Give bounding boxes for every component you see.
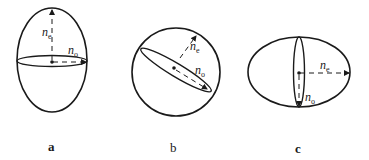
- no-label: no: [68, 43, 78, 59]
- panel-a: ne no a: [17, 8, 87, 154]
- center-dot: [172, 66, 176, 70]
- sphere-outline: [132, 28, 220, 116]
- ne-label: ne: [190, 39, 200, 55]
- no-label: no: [195, 63, 205, 79]
- no-label: no: [305, 90, 315, 106]
- panel-b: ne no b: [132, 28, 220, 155]
- ne-label: ne: [42, 25, 52, 41]
- caption-a: a: [48, 139, 55, 154]
- panel-c: ne no c: [248, 37, 350, 156]
- ne-label: ne: [320, 58, 330, 74]
- caption-c: c: [295, 141, 301, 156]
- index-ellipsoid-figure: ne no a ne no b ne no c: [0, 0, 369, 160]
- caption-b: b: [170, 140, 177, 155]
